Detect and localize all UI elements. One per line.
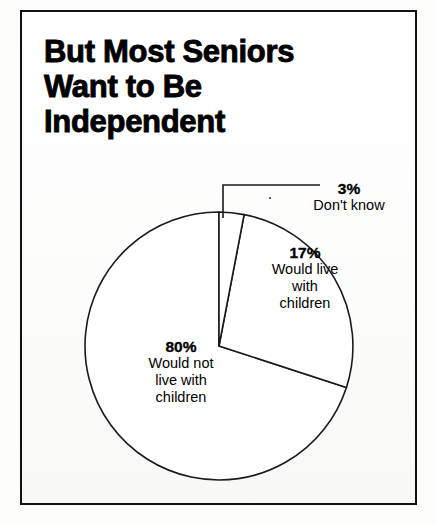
pie-label-dont-know-value: 3% <box>269 180 429 197</box>
pie-label-would-not-live-line-1: Would not <box>111 355 251 372</box>
pie-chart: 3% Don't know 17% Would live with childr… <box>22 12 419 507</box>
pie-label-would-not-live-with-children: 80% Would not live with children <box>111 338 251 406</box>
pie-label-would-not-live-line-2: live with <box>111 372 251 389</box>
pie-label-would-live-value: 17% <box>240 244 370 261</box>
pie-label-would-not-live-value: 80% <box>111 338 251 355</box>
pie-label-would-live-line-1: Would live <box>240 261 370 278</box>
pie-label-would-not-live-line-3: children <box>111 389 251 406</box>
pie-label-would-live-line-3: children <box>240 295 370 312</box>
pie-label-would-live-with-children: 17% Would live with children <box>240 244 370 312</box>
pie-label-would-live-line-2: with <box>240 278 370 295</box>
pie-label-dont-know: 3% Don't know <box>269 180 429 214</box>
pie-label-dont-know-text: Don't know <box>269 197 429 214</box>
figure-frame: But Most Seniors Want to Be Independent … <box>20 10 417 505</box>
